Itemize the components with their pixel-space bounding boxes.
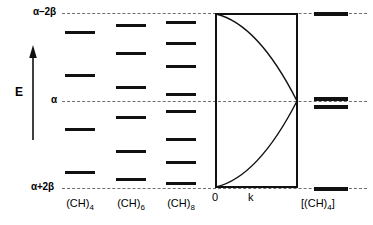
polymer-band-gap-lower [314,105,348,109]
energy-level [116,116,146,119]
energy-axis-arrow [29,45,37,140]
column-label-ch6-subscript: 6 [140,203,144,212]
energy-level-band-diagram: α−2β α α+2β E 0 k (CH)4 (CH)6 (CH) [0,0,373,225]
energy-level [166,182,196,185]
label-alpha-plus-2beta: α+2β [31,181,54,192]
polymer-band-edge-lower [314,187,348,191]
energy-level [65,74,95,77]
polymer-label-suffix: ] [332,197,335,209]
polymer-band-gap-upper [314,97,348,101]
energy-level [116,52,146,55]
k-axis-variable-label: k [248,191,254,203]
energy-level [166,93,196,96]
column-label-polyacetylene: [(CH)4] [301,197,335,212]
column-label-ch8: (CH)8 [151,197,211,212]
energy-level [65,171,95,174]
polymer-label-prefix: [(CH) [301,197,327,209]
label-alpha: α [51,94,57,105]
energy-level [65,31,95,34]
energy-level [65,128,95,131]
energy-axis-label: E [15,85,23,99]
energy-level [166,21,196,24]
energy-level [116,86,146,89]
band-structure-box [215,13,298,188]
column-label-ch6-text: (CH) [117,197,140,209]
energy-level [166,42,196,45]
energy-level [166,138,196,141]
column-label-ch4-text: (CH) [66,197,89,209]
column-label-ch8-text: (CH) [167,197,190,209]
energy-level [116,150,146,153]
energy-level [166,110,196,113]
energy-level [116,178,146,181]
energy-level [166,161,196,164]
polymer-band-edge-upper [314,12,348,16]
column-label-ch4-subscript: 4 [89,203,93,212]
label-alpha-minus-2beta: α−2β [33,6,56,17]
column-label-ch8-subscript: 8 [190,203,194,212]
k-axis-origin-label: 0 [212,191,218,203]
energy-level [166,65,196,68]
energy-level [116,24,146,27]
